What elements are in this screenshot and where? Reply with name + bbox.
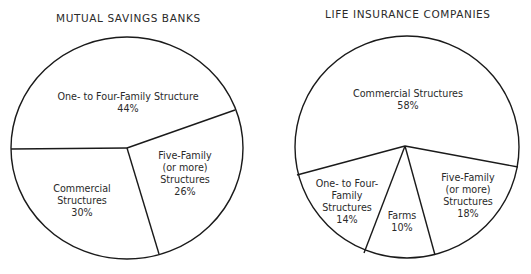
right-slice-commercial-label: Commercial Structures 58% bbox=[353, 88, 463, 112]
left-pie bbox=[11, 37, 243, 259]
right-slice-one-to-four-label: One- to Four- Family Structures 14% bbox=[316, 178, 379, 226]
right-slice-five-family-label: Five-Family (or more) Structures 18% bbox=[441, 172, 494, 220]
left-slice-commercial-label: Commercial Structures 30% bbox=[53, 183, 110, 219]
right-slice-farms-label: Farms 10% bbox=[388, 210, 417, 234]
left-slice-one-to-four-label: One- to Four-Family Structure 44% bbox=[57, 91, 198, 115]
left-slice-five-family-label: Five-Family (or more) Structures 26% bbox=[158, 150, 211, 198]
pie-charts-graphic bbox=[0, 0, 531, 274]
